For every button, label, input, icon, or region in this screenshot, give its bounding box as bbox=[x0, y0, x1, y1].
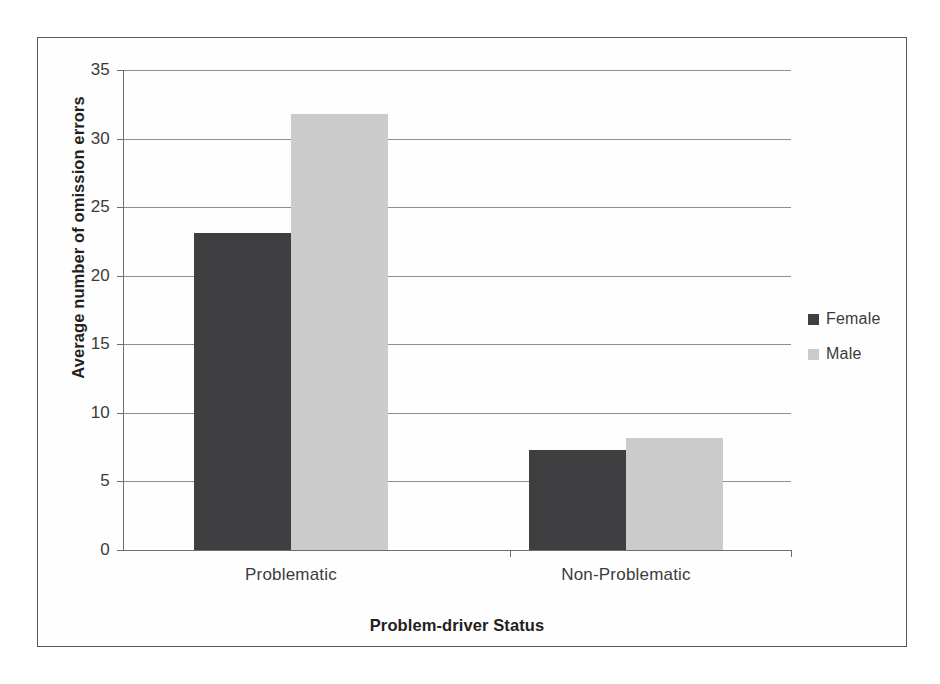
legend-label-female: Female bbox=[826, 310, 881, 328]
gridline-25 bbox=[123, 207, 791, 208]
legend-label-male: Male bbox=[826, 345, 861, 363]
gridline-35 bbox=[123, 70, 791, 71]
y-tick-label-30: 30 bbox=[48, 129, 110, 149]
bar-male-problematic bbox=[291, 114, 388, 550]
x-axis-title: Problem-driver Status bbox=[123, 616, 791, 635]
y-tick-mark-25 bbox=[117, 207, 124, 208]
plot-area bbox=[123, 70, 791, 550]
legend-item-male: Male bbox=[808, 345, 903, 363]
legend-item-female: Female bbox=[808, 310, 903, 328]
gridline-30 bbox=[123, 139, 791, 140]
y-tick-mark-0 bbox=[117, 550, 124, 551]
x-axis-tick-0 bbox=[510, 550, 511, 557]
y-tick-label-25: 25 bbox=[48, 197, 110, 217]
legend-swatch-male-icon bbox=[808, 349, 819, 360]
y-tick-label-5: 5 bbox=[48, 471, 110, 491]
chart-legend: FemaleMale bbox=[808, 310, 903, 380]
y-tick-label-20: 20 bbox=[48, 266, 110, 286]
x-axis-tick-1 bbox=[791, 550, 792, 557]
bar-female-problematic bbox=[194, 233, 291, 550]
y-tick-mark-10 bbox=[117, 413, 124, 414]
gridline-0 bbox=[123, 550, 791, 551]
y-axis-tick-labels: 35302520151050 bbox=[38, 70, 110, 550]
y-tick-mark-30 bbox=[117, 139, 124, 140]
x-category-label-problematic: Problematic bbox=[181, 565, 401, 585]
bar-male-non-problematic bbox=[626, 438, 723, 550]
chart-frame: Average number of omission errors 353025… bbox=[37, 37, 907, 647]
bar-female-non-problematic bbox=[529, 450, 626, 550]
legend-swatch-female-icon bbox=[808, 314, 819, 325]
y-tick-label-15: 15 bbox=[48, 334, 110, 354]
y-tick-label-35: 35 bbox=[48, 60, 110, 80]
y-tick-label-10: 10 bbox=[48, 403, 110, 423]
y-tick-mark-5 bbox=[117, 481, 124, 482]
y-tick-mark-15 bbox=[117, 344, 124, 345]
y-tick-mark-20 bbox=[117, 276, 124, 277]
x-category-label-non-problematic: Non-Problematic bbox=[516, 565, 736, 585]
y-tick-mark-35 bbox=[117, 70, 124, 71]
y-tick-label-0: 0 bbox=[48, 540, 110, 560]
